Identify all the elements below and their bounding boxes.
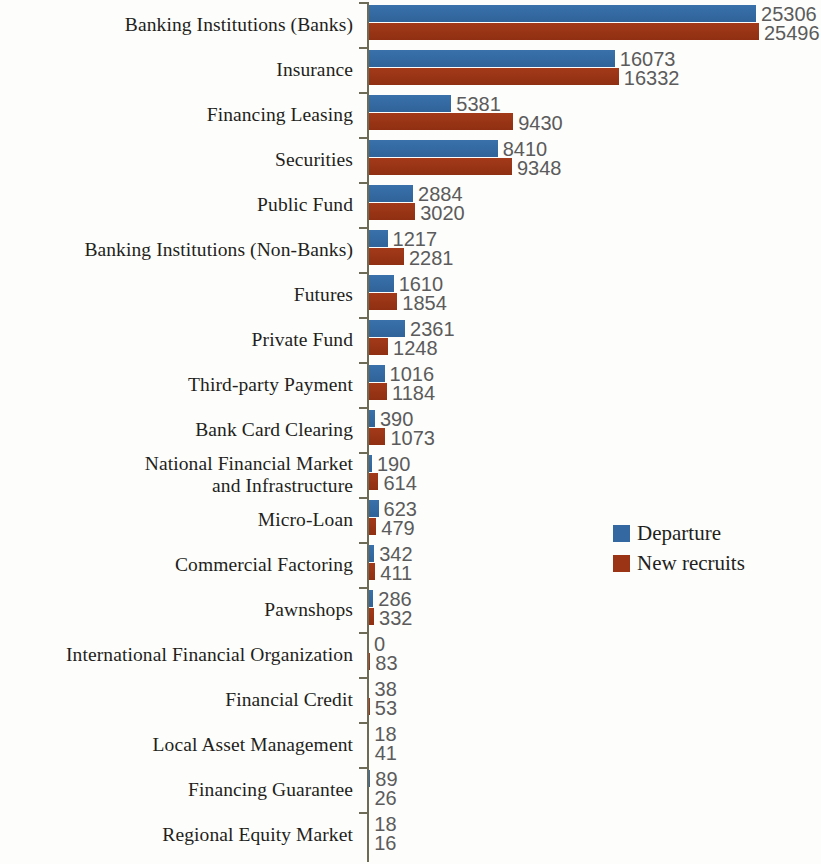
bar-group: 286332 — [369, 587, 821, 632]
value-label-new-recruits: 9348 — [517, 158, 562, 178]
category-label: Securities — [0, 137, 359, 182]
category-label: Third-party Payment — [0, 362, 359, 407]
bar-chart: Banking Institutions (Banks)2530625496In… — [0, 0, 821, 864]
bar-departure — [369, 275, 394, 292]
bar-new-recruits — [369, 203, 415, 220]
value-label-departure: 390 — [380, 409, 413, 429]
value-label-departure: 16073 — [620, 49, 676, 69]
bar-new-recruits — [369, 653, 370, 670]
axis-tick — [359, 2, 368, 4]
value-label-new-recruits: 479 — [381, 518, 414, 538]
axis-tick — [359, 767, 368, 769]
chart-row: Bank Card Clearing3901073 — [0, 407, 821, 452]
chart-row: Insurance1607316332 — [0, 47, 821, 92]
bar-new-recruits — [369, 113, 513, 130]
chart-row: National Financial Market and Infrastruc… — [0, 452, 821, 497]
bar-new-recruits — [369, 383, 387, 400]
bar-departure — [369, 590, 373, 607]
value-label-new-recruits: 83 — [375, 653, 397, 673]
bar-group: 1841 — [369, 722, 821, 767]
bar-group: 23611248 — [369, 317, 821, 362]
chart-row: Futures16101854 — [0, 272, 821, 317]
bar-group: 3853 — [369, 677, 821, 722]
bar-departure — [369, 50, 615, 67]
bar-new-recruits — [369, 23, 759, 40]
axis-tick — [359, 47, 368, 49]
bar-departure — [369, 365, 385, 382]
bar-group: 10161184 — [369, 362, 821, 407]
chart-row: Third-party Payment10161184 — [0, 362, 821, 407]
category-label: Financing Leasing — [0, 92, 359, 137]
bar-new-recruits — [369, 293, 397, 310]
value-label-departure: 342 — [379, 544, 412, 564]
bar-departure — [369, 320, 405, 337]
value-label-new-recruits: 53 — [375, 698, 397, 718]
value-label-new-recruits: 16 — [374, 833, 396, 853]
chart-row: Securities84109348 — [0, 137, 821, 182]
axis-tick — [359, 812, 368, 814]
bar-new-recruits — [369, 158, 512, 175]
axis-tick — [359, 452, 368, 454]
bar-new-recruits — [369, 338, 388, 355]
axis-tick — [359, 317, 368, 319]
value-label-new-recruits: 614 — [383, 473, 416, 493]
bar-new-recruits — [369, 563, 375, 580]
category-label: Financing Guarantee — [0, 767, 359, 812]
bar-new-recruits — [369, 248, 404, 265]
bar-group: 1816 — [369, 812, 821, 857]
bar-group: 2530625496 — [369, 2, 821, 47]
bar-group: 53819430 — [369, 92, 821, 137]
category-label: Private Fund — [0, 317, 359, 362]
value-label-departure: 5381 — [456, 94, 501, 114]
value-label-departure: 1610 — [399, 274, 444, 294]
chart-row: Financing Guarantee8926 — [0, 767, 821, 812]
chart-row: Financing Leasing53819430 — [0, 92, 821, 137]
chart-legend: DepartureNew recruits — [613, 518, 813, 578]
value-label-new-recruits: 41 — [375, 743, 397, 763]
bar-group: 3901073 — [369, 407, 821, 452]
chart-row: Banking Institutions (Non-Banks)12172281 — [0, 227, 821, 272]
bar-group: 12172281 — [369, 227, 821, 272]
legend-item: Departure — [613, 518, 813, 548]
bar-group: 190614 — [369, 452, 821, 497]
value-label-departure: 18 — [374, 814, 396, 834]
bar-departure — [369, 95, 451, 112]
axis-tick — [359, 137, 368, 139]
legend-swatch-new-recruits-icon — [613, 555, 630, 572]
value-label-departure: 89 — [375, 769, 397, 789]
bar-group: 1607316332 — [369, 47, 821, 92]
axis-tick — [359, 497, 368, 499]
chart-row: Pawnshops286332 — [0, 587, 821, 632]
legend-label: New recruits — [637, 551, 745, 576]
bar-group: 083 — [369, 632, 821, 677]
bar-new-recruits — [369, 608, 374, 625]
bar-departure — [369, 500, 379, 517]
value-label-new-recruits: 9430 — [518, 113, 563, 133]
bar-new-recruits — [369, 698, 370, 715]
value-label-departure: 38 — [375, 679, 397, 699]
value-label-departure: 286 — [378, 589, 411, 609]
category-label: Financial Credit — [0, 677, 359, 722]
legend-item: New recruits — [613, 548, 813, 578]
category-label: Micro-Loan — [0, 497, 359, 542]
bar-departure — [369, 140, 498, 157]
value-label-departure: 1016 — [390, 364, 435, 384]
category-label: Public Fund — [0, 182, 359, 227]
bar-departure — [369, 770, 370, 787]
value-label-new-recruits: 16332 — [624, 68, 680, 88]
bar-departure — [369, 410, 375, 427]
value-label-departure: 0 — [374, 634, 385, 654]
value-label-departure: 190 — [377, 454, 410, 474]
value-label-new-recruits: 2281 — [409, 248, 454, 268]
bar-departure — [369, 230, 388, 247]
category-label: Banking Institutions (Non-Banks) — [0, 227, 359, 272]
bar-group: 28843020 — [369, 182, 821, 227]
category-label: Regional Equity Market — [0, 812, 359, 857]
axis-tick — [359, 362, 368, 364]
bar-departure — [369, 455, 372, 472]
value-label-departure: 2361 — [410, 319, 455, 339]
axis-tick — [359, 587, 368, 589]
axis-tick — [359, 227, 368, 229]
category-label: Bank Card Clearing — [0, 407, 359, 452]
axis-tick — [359, 407, 368, 409]
